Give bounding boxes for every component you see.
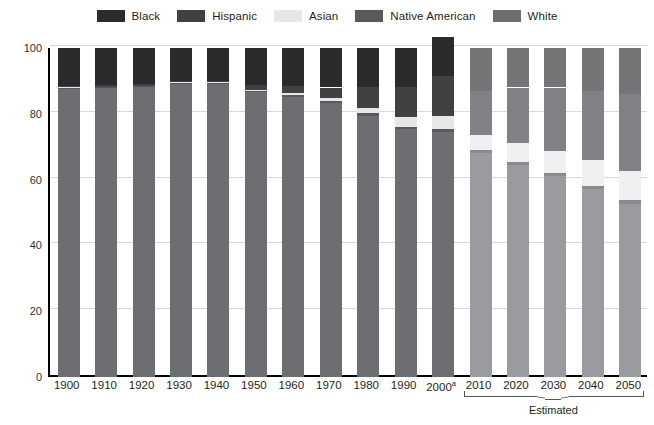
- plot-area: [48, 48, 647, 377]
- bar-segment-1990-hispanic: [395, 87, 417, 117]
- bar-segment-2000-native-american: [432, 129, 454, 132]
- bar-1990: [395, 24, 417, 377]
- bar-segment-2020-native-american: [507, 162, 529, 165]
- y-tick-label-20: 20: [30, 305, 42, 317]
- bar-segment-1940-hispanic: [207, 81, 229, 82]
- legend-item-asian: Asian: [274, 10, 338, 22]
- y-tick-label-0: 0: [36, 371, 42, 383]
- bar-segment-1900-white: [58, 89, 80, 377]
- bar-segment-2000-white: [432, 132, 454, 377]
- bar-2040: [582, 24, 604, 377]
- bar-segment-1960-white: [282, 97, 304, 377]
- bracket-line-left: [464, 396, 537, 397]
- x-tick-label-2000: 2000a: [426, 379, 456, 393]
- x-tick-label-1940: 1940: [204, 379, 230, 391]
- bar-segment-1910-hispanic: [95, 85, 117, 86]
- bar-segment-1910-white: [95, 88, 117, 377]
- bar-1980: [357, 24, 379, 377]
- legend-swatch-icon: [493, 10, 521, 22]
- bar-segment-1970-native-american: [320, 101, 342, 103]
- bar-segment-1980-native-american: [357, 113, 379, 115]
- bar-segment-2040-black: [582, 48, 604, 91]
- bar-segment-1980-asian: [357, 108, 379, 113]
- x-tick-label-1990: 1990: [391, 379, 417, 391]
- x-tick-label-1980: 1980: [353, 379, 379, 391]
- y-tick-label-60: 60: [30, 174, 42, 186]
- y-tick-label-40: 40: [30, 239, 42, 251]
- x-tick-label-2040: 2040: [578, 379, 604, 391]
- bar-segment-1930-black: [170, 48, 192, 81]
- bar-segment-2000-hispanic: [432, 76, 454, 116]
- legend-swatch-icon: [177, 10, 205, 22]
- bar-segment-2020-black: [507, 48, 529, 87]
- bar-segment-2010-white: [470, 153, 492, 377]
- chart-root: BlackHispanicAsianNative AmericanWhite 0…: [0, 0, 654, 425]
- x-tick-label-1920: 1920: [129, 379, 155, 391]
- chart-title-cropped: [0, 0, 654, 7]
- bar-segment-2010-native-american: [470, 150, 492, 153]
- legend-label: White: [528, 10, 558, 22]
- legend-item-black: Black: [97, 10, 161, 22]
- bar-1940: [207, 24, 229, 377]
- bar-1950: [245, 24, 267, 377]
- bar-segment-2010-hispanic: [470, 91, 492, 135]
- x-tick-label-1970: 1970: [316, 379, 342, 391]
- bar-segment-1960-hispanic: [282, 86, 304, 93]
- x-tick-label-1960: 1960: [279, 379, 305, 391]
- legend-swatch-icon: [355, 10, 383, 22]
- legend-label: Hispanic: [212, 10, 257, 22]
- bar-segment-1950-white: [245, 92, 267, 377]
- bar-segment-2020-white: [507, 165, 529, 377]
- bar-segment-1970-hispanic: [320, 88, 342, 99]
- bar-1960: [282, 24, 304, 377]
- bar-segment-2050-asian: [619, 171, 641, 200]
- bar-segment-2020-asian: [507, 143, 529, 161]
- bar-segment-1990-black: [395, 48, 417, 87]
- bar-segment-2040-hispanic: [582, 91, 604, 160]
- bar-segment-1980-black: [357, 48, 379, 87]
- bar-segment-2000-black: [432, 37, 454, 76]
- bracket-dip-left: [537, 396, 545, 398]
- bar-2020: [507, 24, 529, 377]
- x-tick-label-2030: 2030: [541, 379, 567, 391]
- legend-item-native-american: Native American: [355, 10, 475, 22]
- bar-segment-1950-hispanic: [245, 85, 267, 90]
- legend-label: Native American: [390, 10, 475, 22]
- bar-2050: [619, 24, 641, 377]
- bar-segment-2030-asian: [544, 151, 566, 173]
- bar-2000: [432, 24, 454, 377]
- bar-segment-2030-white: [544, 176, 566, 377]
- bar-segment-1900-native-american: [58, 88, 80, 89]
- bar-segment-1970-white: [320, 103, 342, 377]
- bar-1910: [95, 24, 117, 377]
- bar-segment-1930-hispanic: [170, 81, 192, 82]
- bar-segment-2030-native-american: [544, 173, 566, 177]
- legend-label: Black: [132, 10, 161, 22]
- bar-segment-1900-black: [58, 48, 80, 86]
- bar-segment-2050-white: [619, 204, 641, 377]
- bar-segment-1950-native-american: [245, 91, 267, 92]
- x-tick-label-2020: 2020: [503, 379, 529, 391]
- bar-segment-1990-white: [395, 129, 417, 377]
- bar-segment-2050-native-american: [619, 200, 641, 204]
- bar-segment-1940-native-american: [207, 83, 229, 84]
- bar-segment-2030-black: [544, 48, 566, 87]
- bar-segment-2000-asian: [432, 116, 454, 129]
- bar-segment-1940-white: [207, 84, 229, 377]
- x-tick-label-2050: 2050: [615, 379, 641, 391]
- bar-1970: [320, 24, 342, 377]
- x-tick-label-2010: 2010: [466, 379, 492, 391]
- y-axis: 020406080100 Percentage: [0, 48, 48, 377]
- bar-segment-1990-asian: [395, 117, 417, 127]
- bar-series-group: [50, 24, 647, 377]
- bar-segment-1980-hispanic: [357, 87, 379, 108]
- bar-2010: [470, 24, 492, 377]
- x-axis-labels: 1900191019201930194019501960197019801990…: [48, 379, 647, 395]
- legend-item-white: White: [493, 10, 558, 22]
- bar-segment-1980-white: [357, 116, 379, 377]
- bar-segment-1900-hispanic: [58, 86, 80, 87]
- bar-segment-1960-asian: [282, 93, 304, 95]
- bar-segment-1910-black: [95, 48, 117, 85]
- bar-segment-1910-native-american: [95, 87, 117, 88]
- bar-segment-1920-hispanic: [133, 84, 155, 85]
